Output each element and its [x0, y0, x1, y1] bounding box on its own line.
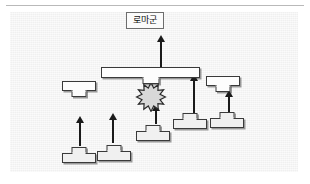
- top-divider-rule: [6, 5, 304, 6]
- figure-root: 로마군: [0, 0, 310, 184]
- unit-seam: [143, 76, 158, 79]
- unit-roman-right-flank[interactable]: [206, 76, 240, 92]
- advance-arrow-right-outer: [223, 90, 235, 112]
- unit-seam: [108, 150, 121, 153]
- unit-enemy-center-2[interactable]: [173, 113, 207, 129]
- label-roman-army-text: 로마군: [133, 15, 157, 25]
- label-roman-army: 로마군: [126, 12, 164, 29]
- arrow-shaft: [160, 39, 162, 69]
- unit-seam: [221, 117, 234, 120]
- arrow-shaft: [193, 79, 195, 114]
- battle-clash-burst: [134, 82, 168, 112]
- advance-arrow-top: [155, 35, 167, 69]
- arrow-shaft: [112, 118, 114, 143]
- unit-enemy-rear-left-1[interactable]: [62, 147, 96, 163]
- unit-seam: [147, 130, 160, 133]
- unit-enemy-rear-left-2[interactable]: [97, 145, 131, 161]
- unit-seam: [184, 118, 197, 121]
- advance-arrow-left-outer: [74, 116, 86, 146]
- arrow-shaft: [79, 121, 81, 146]
- unit-seam: [73, 89, 86, 92]
- arrow-shaft: [228, 95, 230, 112]
- unit-roman-main-line[interactable]: [101, 67, 200, 84]
- battle-map-panel: 로마군: [10, 12, 298, 172]
- unit-seam: [73, 152, 86, 155]
- advance-arrow-left-inner: [107, 113, 119, 143]
- unit-roman-left-flank[interactable]: [62, 81, 96, 97]
- unit-enemy-center-3[interactable]: [210, 112, 244, 128]
- unit-seam: [217, 84, 230, 87]
- unit-enemy-center-1[interactable]: [136, 125, 170, 141]
